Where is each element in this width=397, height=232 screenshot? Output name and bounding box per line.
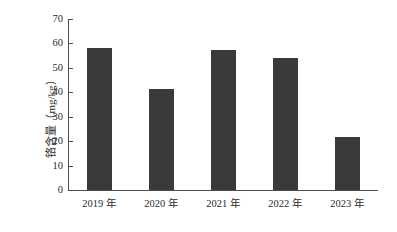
y-tick: 0 [68, 190, 73, 191]
y-tick: 70 [68, 19, 73, 20]
x-axis-label: 2023 年 [316, 196, 378, 212]
y-tick-label: 40 [41, 85, 63, 99]
y-tick-label: 30 [41, 110, 63, 124]
x-axis-label: 2019 年 [68, 196, 130, 212]
y-tick-mark [69, 92, 73, 93]
bar [211, 50, 236, 190]
y-tick-mark [69, 166, 73, 167]
y-tick: 20 [68, 141, 73, 142]
x-axis-label: 2020 年 [130, 196, 192, 212]
y-tick: 60 [68, 43, 73, 44]
y-tick-label: 60 [41, 36, 63, 50]
bar-chart: 铬含量（mg/kg） 010203040506070 2019 年2020 年2… [0, 0, 397, 232]
y-tick: 40 [68, 92, 73, 93]
bar [273, 58, 298, 190]
y-tick: 30 [68, 117, 73, 118]
y-tick-mark [69, 141, 73, 142]
y-tick-mark [69, 190, 73, 191]
y-tick: 50 [68, 68, 73, 69]
y-tick-label: 20 [41, 134, 63, 148]
bar [335, 137, 360, 190]
y-tick-label: 10 [41, 159, 63, 173]
y-tick-label: 0 [41, 183, 63, 197]
plot-area: 010203040506070 [68, 19, 378, 190]
y-tick-mark [69, 117, 73, 118]
x-axis-labels: 2019 年2020 年2021 年2022 年2023 年 [68, 196, 378, 216]
bar [149, 89, 174, 190]
x-axis-label: 2021 年 [192, 196, 254, 212]
y-axis-title: 铬含量（mg/kg） [22, 0, 38, 232]
x-axis-label: 2022 年 [254, 196, 316, 212]
y-tick-mark [69, 19, 73, 20]
y-tick-mark [69, 43, 73, 44]
y-tick-mark [69, 68, 73, 69]
y-tick-label: 50 [41, 61, 63, 75]
y-axis-line [68, 19, 69, 190]
bar [87, 48, 112, 190]
x-axis-line [68, 190, 378, 191]
y-tick: 10 [68, 166, 73, 167]
y-tick-label: 70 [41, 12, 63, 26]
